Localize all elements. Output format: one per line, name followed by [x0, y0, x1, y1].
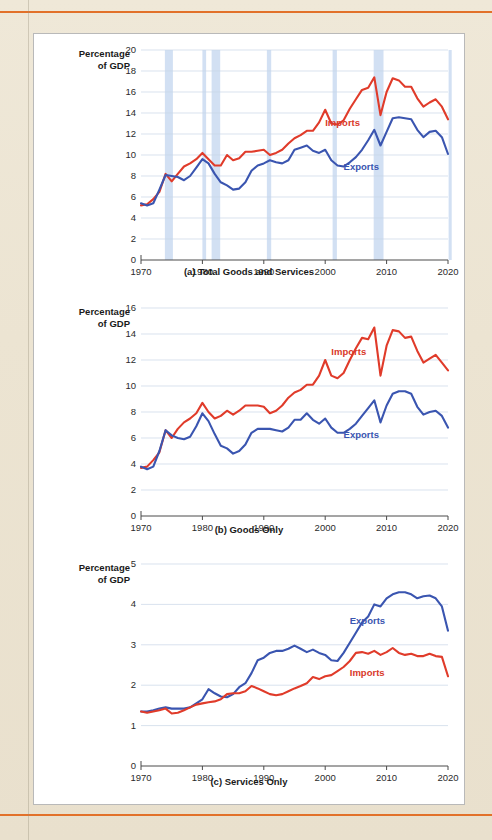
series-label-imports: Imports — [350, 667, 385, 678]
y-tick-label: 2 — [114, 484, 136, 495]
series-label-imports: Imports — [325, 117, 360, 128]
chart-caption-c: (c) Services Only — [34, 776, 464, 787]
plot-area-b — [141, 308, 448, 522]
y-tick-label: 12 — [114, 354, 136, 365]
y-tick-label: 0 — [114, 510, 136, 521]
y-tick-label: 0 — [114, 760, 136, 771]
y-tick-label: 4 — [114, 458, 136, 469]
series-line-exports — [141, 117, 448, 205]
plot-area-a — [141, 50, 448, 266]
series-line-exports — [141, 592, 448, 711]
y-tick-label: 2 — [114, 679, 136, 690]
page-rule-bottom — [0, 814, 492, 816]
y-tick-label: 20 — [114, 44, 136, 55]
series-line-imports — [141, 328, 448, 468]
plot-area-c — [141, 564, 448, 772]
y-tick-label: 16 — [114, 302, 136, 313]
y-tick-label: 4 — [114, 598, 136, 609]
chart-block-a: Percentage of GDP02468101214161820197019… — [34, 34, 464, 292]
y-tick-label: 8 — [114, 170, 136, 181]
y-tick-label: 0 — [114, 254, 136, 265]
y-tick-label: 12 — [114, 128, 136, 139]
y-tick-label: 1 — [114, 720, 136, 731]
y-tick-label: 14 — [114, 107, 136, 118]
series-label-imports: Imports — [331, 346, 366, 357]
y-tick-label: 2 — [114, 233, 136, 244]
chart-block-b: Percentage of GDP02468101214161970198019… — [34, 292, 464, 550]
y-tick-label: 18 — [114, 65, 136, 76]
series-label-exports: Exports — [344, 429, 379, 440]
y-tick-label: 16 — [114, 86, 136, 97]
y-tick-label: 6 — [114, 432, 136, 443]
series-line-imports — [141, 77, 448, 205]
y-tick-label: 3 — [114, 639, 136, 650]
page-rule-top — [0, 11, 492, 13]
figure-panel: Percentage of GDP02468101214161820197019… — [33, 33, 465, 805]
y-tick-label: 14 — [114, 328, 136, 339]
y-tick-label: 5 — [114, 558, 136, 569]
chart-block-c: Percentage of GDP01234519701980199020002… — [34, 550, 464, 802]
page-gutter-line — [28, 0, 29, 840]
series-line-imports — [141, 648, 448, 714]
chart-caption-b: (b) Goods Only — [34, 524, 464, 535]
y-tick-label: 8 — [114, 406, 136, 417]
y-tick-label: 10 — [114, 149, 136, 160]
y-tick-label: 4 — [114, 212, 136, 223]
series-label-exports: Exports — [350, 615, 385, 626]
recession-band — [449, 50, 452, 260]
series-line-exports — [141, 391, 448, 469]
chart-caption-a: (a) Total Goods and Services — [34, 266, 464, 277]
series-label-exports: Exports — [344, 161, 379, 172]
y-tick-label: 10 — [114, 380, 136, 391]
y-tick-label: 6 — [114, 191, 136, 202]
